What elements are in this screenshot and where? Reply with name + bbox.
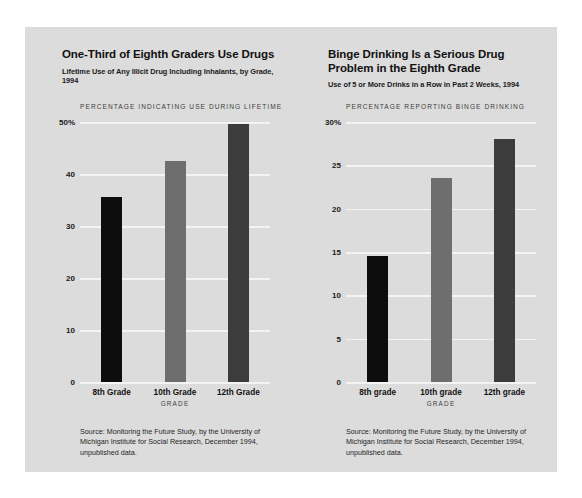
y-axis-tick-label: 0 (71, 378, 75, 387)
x-axis-category-label: 12th Grade (217, 388, 260, 397)
x-axis-title: GRADE (427, 400, 456, 407)
chart-header-right: Binge Drinking Is a Serious Drug Problem… (328, 48, 549, 89)
x-axis-category-label: 12th grade (484, 388, 525, 397)
x-axis-category-label: 10th grade (420, 388, 461, 397)
y-axis-tick-label: 10 (332, 291, 341, 300)
x-axis-category-label: 8th Grade (93, 388, 131, 397)
source-note: Source: Monitoring the Future Study, by … (346, 427, 547, 458)
chart-drug-use: One-Third of Eighth Graders Use Drugs Li… (25, 27, 291, 472)
x-axis-category-label: 8th grade (359, 388, 396, 397)
chart-subtitle: Use of 5 or More Drinks in a Row in Past… (328, 80, 549, 89)
y-axis-tick-label: 5 (337, 334, 341, 343)
y-axis-tick-label: 10 (66, 326, 75, 335)
gridline: 0 (80, 382, 270, 384)
figure-panel: One-Third of Eighth Graders Use Drugs Li… (25, 27, 557, 472)
y-axis-tick-label: 30 (66, 222, 75, 231)
y-axis-tick-label: 20 (66, 274, 75, 283)
chart-header-left: One-Third of Eighth Graders Use Drugs Li… (62, 48, 283, 85)
y-axis-caption: PERCENTAGE REPORTING BINGE DRINKING (346, 103, 525, 110)
y-axis-tick-label: 40 (66, 170, 75, 179)
plot-area: 30%25201510508th grade10th grade12th gra… (346, 122, 536, 382)
plot-area: 50%4030201008th Grade10th Grade12th Grad… (80, 122, 270, 382)
gridline: 30% (346, 122, 536, 124)
chart-title: One-Third of Eighth Graders Use Drugs (62, 48, 283, 62)
y-axis-tick-label: 15 (332, 248, 341, 257)
x-axis-title: GRADE (161, 400, 190, 407)
bar (101, 197, 122, 382)
bar (228, 124, 249, 382)
bar (165, 161, 186, 382)
chart-binge-drinking: Binge Drinking Is a Serious Drug Problem… (291, 27, 557, 472)
chart-title: Binge Drinking Is a Serious Drug Problem… (328, 48, 549, 75)
y-axis-tick-label: 30% (325, 118, 341, 127)
bar (367, 256, 388, 382)
y-axis-caption: PERCENTAGE INDICATING USE DURING LIFETIM… (80, 103, 282, 110)
y-axis-tick-label: 50% (59, 118, 75, 127)
y-axis-tick-label: 0 (337, 378, 341, 387)
bar (431, 178, 452, 382)
source-note: Source: Monitoring the Future Study, by … (80, 427, 281, 458)
y-axis-tick-label: 20 (332, 204, 341, 213)
bar (494, 139, 515, 382)
gridline: 0 (346, 382, 536, 384)
x-axis-category-label: 10th Grade (154, 388, 197, 397)
chart-subtitle: Lifetime Use of Any Illicit Drug Includi… (62, 67, 283, 86)
y-axis-tick-label: 25 (332, 161, 341, 170)
